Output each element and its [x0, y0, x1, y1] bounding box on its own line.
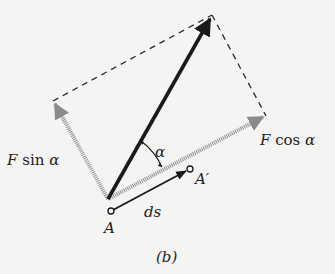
alpha-angle-label: α	[155, 143, 165, 161]
figure-caption: (b)	[156, 248, 177, 266]
point-a-prime-marker	[187, 166, 193, 172]
f-cos-alpha-label: F cos α	[259, 131, 315, 149]
point-a-prime-label: A′	[193, 170, 210, 188]
dashed-construction-lines	[53, 15, 266, 116]
f-sin-alpha-label: F sin α	[6, 151, 59, 169]
point-a-marker	[108, 208, 114, 214]
ds-label: ds	[144, 203, 162, 221]
point-a-label: A	[102, 219, 115, 237]
dashed-line-top-right	[212, 15, 266, 116]
f-sin-component-arrow	[55, 104, 108, 199]
work-component-diagram: F sin α F cos α α A′ ds A (b)	[0, 0, 335, 274]
